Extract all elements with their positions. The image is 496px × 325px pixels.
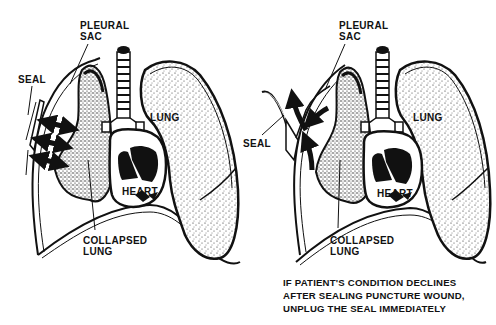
right-lung-label: LUNG xyxy=(413,112,443,123)
caption-line-1: IF PATIENT'S CONDITION DECLINES xyxy=(283,276,465,289)
right-heart-label: HEART xyxy=(377,188,413,199)
right-panel xyxy=(262,44,490,265)
right-seal-label: SEAL xyxy=(243,138,271,149)
right-seal xyxy=(262,86,330,160)
left-seal-leader xyxy=(28,86,32,115)
right-seal-leader xyxy=(262,115,284,135)
left-heart-label: HEART xyxy=(122,186,158,197)
left-seal-label: SEAL xyxy=(18,74,46,85)
warning-caption: IF PATIENT'S CONDITION DECLINES AFTER SE… xyxy=(283,276,465,315)
right-collapsed-lung-label: COLLAPSED LUNG xyxy=(330,235,394,257)
left-pleural-sac-label: PLEURAL SAC xyxy=(80,20,129,42)
caption-line-2: AFTER SEALING PUNCTURE WOUND, xyxy=(283,289,465,302)
left-panel xyxy=(26,44,240,263)
left-collapsed-lung xyxy=(55,66,112,202)
caption-line-3: UNPLUG THE SEAL IMMEDIATELY xyxy=(283,302,465,315)
left-lung-label: LUNG xyxy=(150,112,180,123)
right-pleural-sac-label: PLEURAL SAC xyxy=(339,20,388,42)
left-collapsed-lung-label: COLLAPSED LUNG xyxy=(83,235,147,257)
